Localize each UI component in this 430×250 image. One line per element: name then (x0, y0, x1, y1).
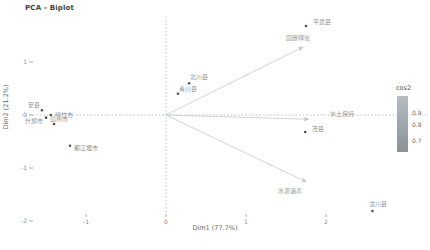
x-tick-label: -1 (83, 218, 89, 225)
point-label: 都江堰市 (74, 144, 98, 152)
point-label: 平武县 (313, 18, 331, 26)
variable-arrow (166, 47, 303, 115)
variable-arrow (166, 115, 308, 119)
variable-label: 水土保持 (330, 110, 354, 118)
data-point (305, 25, 308, 28)
data-point (53, 123, 56, 126)
point-label: 茂县 (312, 125, 324, 133)
legend-tick-label: 0.8 (412, 122, 422, 128)
data-point (177, 93, 180, 96)
data-point (188, 82, 191, 85)
x-tick-label: 0 (164, 218, 168, 225)
variable-arrow (166, 115, 306, 182)
point-label: 青川县 (179, 85, 197, 93)
point-label: 什邡市 (25, 117, 43, 125)
data-point (41, 109, 44, 112)
x-axis-label: Dim1 (77.7%) (192, 224, 237, 232)
data-point (69, 144, 72, 147)
legend-gradient-bar (397, 96, 408, 152)
y-tick-label: 1 (23, 58, 27, 65)
data-point (45, 116, 48, 119)
x-tick-label: 2 (324, 218, 328, 225)
variable-label: 水源涵养 (278, 187, 302, 195)
plot-area: 10-1-2-1012Dim1 (77.7%)Dim2 (21.2%)固碳释氧水… (0, 0, 430, 250)
cos2-legend: cos2 0.90.80.7 (396, 84, 430, 162)
x-tick-label: 1 (244, 218, 248, 225)
point-label: 安县 (28, 101, 40, 109)
point-label: 北川县 (190, 73, 208, 81)
legend-tick-label: 0.7 (412, 138, 422, 144)
y-tick-label: -2 (21, 217, 27, 224)
variable-label: 固碳释氧 (286, 34, 310, 42)
y-axis-label: Dim2 (21.2%) (2, 84, 10, 129)
data-point (304, 131, 307, 134)
y-tick-label: -1 (21, 164, 27, 171)
point-label: 汶川县 (369, 200, 387, 208)
pca-biplot-chart: PCA - Biplot 10-1-2-1012Dim1 (77.7%)Dim2… (0, 0, 430, 250)
data-point (371, 210, 374, 213)
point-label: 彭州市 (50, 115, 68, 123)
legend-tick-label: 0.9 (412, 110, 422, 116)
legend-title: cos2 (396, 84, 411, 92)
